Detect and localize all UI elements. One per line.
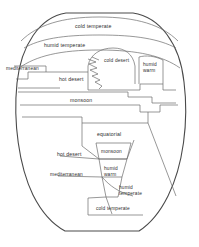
label-mediterranean-south: mediterranean	[50, 172, 83, 177]
label-humid-temperate-north: humid temperate	[44, 42, 85, 48]
egg-outline	[16, 13, 186, 231]
label-hot-desert-south: hot desert	[57, 151, 82, 157]
label-humid-warm-north-line2: warm	[143, 68, 155, 73]
cold-temperate-north-top-inner	[21, 17, 178, 41]
label-humid-warm-north-line1: humid	[143, 62, 157, 67]
label-monsoon-north: monsoon	[70, 97, 92, 103]
label-equatorial: equatorial	[97, 131, 121, 137]
label-cold-desert: cold desert	[104, 58, 130, 63]
climate-zone-diagram: cold temperate humid temperate mediterra…	[0, 0, 199, 247]
hot-desert-north-lower	[18, 92, 176, 103]
cold-desert-dome	[88, 48, 135, 84]
label-humid-temperate-south-line1: humid	[119, 185, 133, 190]
cold-desert-zigzag-tail	[92, 57, 99, 60]
label-hot-desert-north: hot desert	[59, 76, 84, 82]
label-humid-warm-south-line1: humid	[104, 166, 118, 171]
funnel-left-edge	[82, 146, 112, 214]
monsoon-north-lower	[22, 112, 148, 123]
cold-temperate-south-top	[88, 197, 106, 198]
climate-diagram-svg: cold temperate humid temperate mediterra…	[0, 0, 199, 247]
label-humid-warm-south-line2: warm	[104, 172, 116, 177]
label-cold-temperate-south: cold temperate	[96, 206, 130, 211]
label-cold-temperate-north: cold temperate	[75, 23, 111, 29]
equatorial-boundary-right	[148, 123, 176, 196]
label-humid-temperate-south-line2: temperate	[119, 191, 142, 196]
cold-desert-zigzag	[88, 59, 102, 89]
label-mediterranean-north: mediterranean	[6, 66, 39, 71]
label-monsoon-south: monsoon	[101, 149, 122, 154]
monsoon-north-boundary	[20, 105, 178, 112]
